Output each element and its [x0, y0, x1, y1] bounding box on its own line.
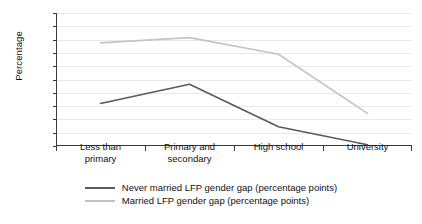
- x-tick-label: High school: [234, 141, 323, 153]
- x-tick-label-line: University: [323, 141, 412, 153]
- legend-rows: Never married LFP gender gap (percentage…: [85, 181, 337, 207]
- x-tick-label-line: primary: [56, 153, 145, 165]
- legend-label: Never married LFP gender gap (percentage…: [122, 182, 337, 193]
- legend-item[interactable]: Never married LFP gender gap (percentage…: [85, 181, 337, 194]
- x-tick-label: Less thanprimary: [56, 141, 145, 164]
- legend-item[interactable]: Married LFP gender gap (percentage point…: [85, 194, 337, 207]
- x-tick-label-line: High school: [234, 141, 323, 153]
- plot-area: 0102030405060708090100: [56, 13, 412, 146]
- legend-line-swatch: [85, 200, 115, 202]
- chart-figure: Percentage 0102030405060708090100 Less t…: [0, 0, 422, 224]
- legend-label: Married LFP gender gap (percentage point…: [122, 195, 309, 206]
- series-line: [101, 84, 368, 145]
- series-line: [101, 38, 368, 114]
- x-tick-label-line: Primary and: [145, 141, 234, 153]
- x-tick-label-line: secondary: [145, 153, 234, 165]
- x-tick-label: University: [323, 141, 412, 153]
- x-tick-label-line: Less than: [56, 141, 145, 153]
- x-tick-label: Primary andsecondary: [145, 141, 234, 164]
- y-axis-title: Percentage: [13, 10, 27, 102]
- chart-legend: Never married LFP gender gap (percentage…: [0, 181, 422, 207]
- data-lines: [56, 13, 412, 146]
- legend-line-swatch: [85, 187, 115, 189]
